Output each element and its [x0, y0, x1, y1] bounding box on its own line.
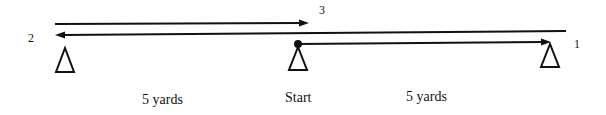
cone-start-icon [289, 47, 307, 70]
path-3-arrow [55, 20, 309, 27]
path-2-arrow [55, 31, 566, 39]
cone-left-icon [56, 48, 74, 72]
cone-right-icon [541, 44, 559, 67]
path-1-arrow [294, 39, 551, 49]
start-label: Start [285, 91, 311, 105]
left-distance-label: 5 yards [142, 93, 183, 107]
right-distance-label: 5 yards [406, 90, 447, 104]
marker-3: 3 [319, 4, 325, 16]
marker-2: 2 [28, 32, 34, 44]
marker-1: 1 [574, 38, 580, 50]
